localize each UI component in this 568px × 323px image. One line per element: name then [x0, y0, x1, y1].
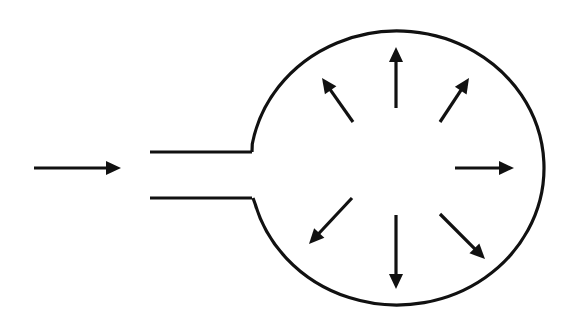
arrowhead-icon — [499, 161, 514, 175]
arrowhead-icon — [322, 78, 336, 94]
arrowhead-icon — [389, 274, 403, 289]
radial-arrow-down-right — [440, 214, 485, 259]
radial-arrow-down — [389, 215, 403, 289]
radial-arrow-right — [455, 161, 514, 175]
radial-arrow-up-right — [440, 78, 469, 122]
arrowhead-icon — [389, 47, 403, 62]
radial-arrow-down-left — [309, 198, 352, 244]
arrowhead-icon — [106, 161, 121, 175]
radial-arrow-up-left — [322, 78, 353, 122]
diagram-canvas — [0, 0, 568, 323]
radial-arrow-up — [389, 47, 403, 108]
radial-arrows — [309, 47, 514, 289]
arrowhead-icon — [455, 78, 469, 94]
inlet-tube — [150, 152, 252, 198]
inlet-arrow — [34, 161, 121, 175]
inlet-flow-arrow — [34, 161, 121, 175]
